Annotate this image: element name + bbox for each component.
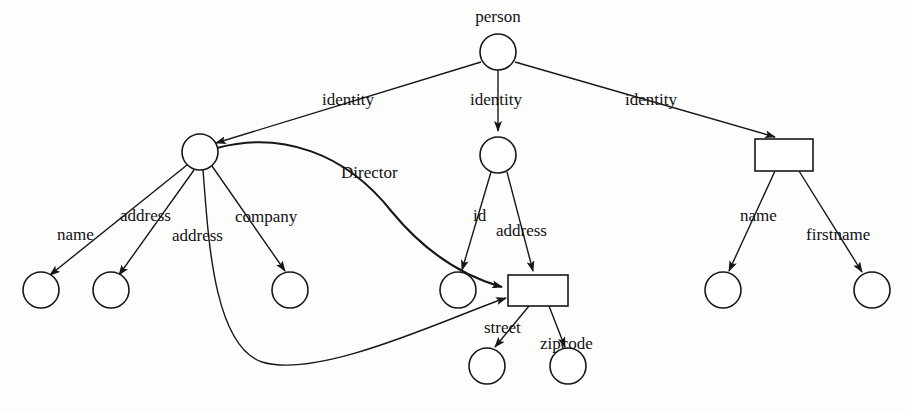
edge-label-id: id: [473, 206, 487, 225]
node-middle-record[interactable]: [480, 137, 516, 173]
node-left-address[interactable]: [93, 272, 129, 308]
graph-svg: person identity identity identity name a…: [0, 0, 911, 413]
edge-label-identity-left: identity: [322, 90, 374, 109]
node-right-firstname[interactable]: [854, 272, 890, 308]
edge-firstname: [799, 171, 862, 272]
node-label-person: person: [475, 7, 521, 26]
edge-label-address-curved: address: [172, 226, 223, 245]
edge-label-company: company: [235, 207, 298, 226]
edge-label-firstname: firstname: [806, 225, 870, 244]
node-labels-layer: person: [475, 7, 521, 26]
edge-label-address-left: address: [120, 206, 171, 225]
edge-label-name-left: name: [57, 225, 94, 244]
edge-label-name-right: name: [740, 206, 777, 225]
edge-label-street: street: [484, 318, 521, 337]
edge-label-zipcode: zipcode: [540, 334, 593, 353]
node-middle-id[interactable]: [440, 272, 476, 308]
edge-label-identity-middle: identity: [470, 90, 522, 109]
edge-label-director: Director: [341, 163, 398, 182]
edge-address-curved: [203, 170, 506, 365]
node-street[interactable]: [469, 348, 505, 384]
node-left-record[interactable]: [182, 134, 218, 170]
node-left-name[interactable]: [23, 272, 59, 308]
node-zipcode[interactable]: [550, 348, 586, 384]
diagram-canvas: person identity identity identity name a…: [0, 0, 911, 413]
edge-label-identity-right: identity: [625, 90, 677, 109]
node-left-company[interactable]: [272, 272, 308, 308]
node-person[interactable]: [480, 34, 516, 70]
node-middle-address[interactable]: [508, 275, 568, 306]
node-right-record[interactable]: [755, 139, 813, 171]
edge-label-address-middle: address: [496, 221, 547, 240]
node-right-name[interactable]: [705, 272, 741, 308]
